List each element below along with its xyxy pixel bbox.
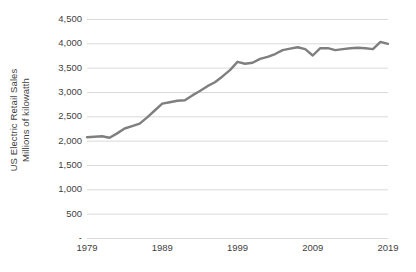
line-chart: US Electric Retail Sales Millions of kil… bbox=[0, 0, 416, 272]
series-line-us-electric-retail-sales bbox=[87, 42, 388, 138]
data-series-group bbox=[87, 42, 388, 138]
x-tick-label-1989: 1989 bbox=[132, 242, 192, 254]
y-tick-label-1000: 1,000 bbox=[38, 184, 82, 194]
y-tick-label-4000: 4,000 bbox=[38, 38, 82, 48]
y-axis-title-text: US Electric Retail Sales Millions of kil… bbox=[8, 69, 32, 172]
y-tick-label-1500: 1,500 bbox=[38, 160, 82, 170]
x-tick-label-2019: 2019 bbox=[358, 242, 416, 254]
y-tick-label-4500: 4,500 bbox=[38, 14, 82, 24]
y-tick-label-2500: 2,500 bbox=[38, 111, 82, 121]
y-tick-label-500: 500 bbox=[38, 209, 82, 219]
y-axis-title-line2: Millions of kilowatth bbox=[20, 69, 32, 172]
x-tick-label-1979: 1979 bbox=[57, 242, 117, 254]
x-tick-label-1999: 1999 bbox=[208, 242, 268, 254]
plot-svg bbox=[87, 19, 388, 238]
plot-area bbox=[87, 19, 388, 238]
y-axis-title: US Electric Retail Sales Millions of kil… bbox=[0, 0, 40, 240]
y-tick-label-3500: 3,500 bbox=[38, 63, 82, 73]
y-tick-label-2000: 2,000 bbox=[38, 136, 82, 146]
y-axis-tick-labels: 4,5004,0003,5003,0002,5002,0001,5001,000… bbox=[38, 0, 82, 272]
x-axis-tick-labels: 19791989199920092019 bbox=[0, 242, 416, 266]
y-axis-title-line1: US Electric Retail Sales bbox=[8, 69, 20, 172]
y-tick-label-3000: 3,000 bbox=[38, 87, 82, 97]
x-tick-label-2009: 2009 bbox=[283, 242, 343, 254]
gridlines bbox=[87, 20, 388, 239]
